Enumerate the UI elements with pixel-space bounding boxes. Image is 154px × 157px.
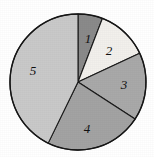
pie-slice-label-1: 1 [85, 31, 92, 46]
pie-slice-label-4: 4 [84, 121, 91, 136]
pie-slice-label-5: 5 [30, 63, 37, 78]
pie-chart-svg: 12345 [0, 0, 154, 157]
pie-chart-figure: 12345 [0, 0, 154, 157]
pie-slice-label-2: 2 [106, 43, 113, 58]
pie-slice-label-3: 3 [120, 77, 128, 92]
